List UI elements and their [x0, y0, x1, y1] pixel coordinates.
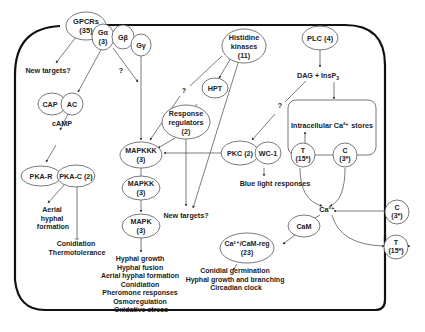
node-mapkkk: MAPKKK (3): [120, 142, 162, 168]
svg-text:(3*): (3*): [391, 212, 402, 220]
node-wc1: WC-1: [255, 142, 281, 164]
svg-text:MAPKK: MAPKK: [128, 179, 155, 188]
svg-text:PKA-C (2): PKA-C (2): [59, 172, 93, 181]
pka-output-aerial: Aerial hyphal formation: [37, 206, 69, 230]
svg-text:MAPK: MAPK: [130, 217, 152, 226]
svg-text:CAP: CAP: [42, 100, 57, 109]
svg-text:C: C: [342, 147, 347, 154]
node-membrane-channel-t: T (15*): [384, 235, 408, 259]
svg-text:C: C: [394, 204, 399, 211]
node-g-alpha: Gα (3): [92, 24, 114, 50]
svg-text:(3*): (3*): [339, 155, 350, 163]
svg-text:GPCRs: GPCRs: [73, 17, 99, 26]
signaling-diagram: Intracellular Ca²⁺ stores: [0, 0, 425, 332]
svg-text:T: T: [394, 239, 399, 246]
node-cam: CaM: [288, 215, 320, 237]
node-store-channel-c: C (3*): [333, 143, 357, 167]
svg-text:(35): (35): [79, 26, 93, 35]
svg-text:HPT: HPT: [208, 84, 223, 93]
question-mark: ?: [278, 101, 282, 110]
blue-light-responses-label: Blue light responses: [240, 179, 311, 188]
svg-text:Response: Response: [169, 109, 203, 118]
node-store-channel-t: T (15*): [291, 143, 315, 167]
node-mapkk: MAPKK (3): [122, 176, 160, 200]
camp-label: cAMP: [52, 119, 72, 128]
pka-outputs: Conidiation Thermotolerance: [49, 240, 106, 256]
svg-text:(11): (11): [238, 51, 251, 60]
svg-text:CaM: CaM: [296, 222, 311, 231]
node-histidine-kinases: Histidine kinases (11): [222, 29, 266, 63]
question-mark: ?: [119, 66, 123, 75]
node-g-gamma: Gγ: [131, 34, 151, 56]
node-pka-c: PKA-C (2): [57, 165, 95, 187]
node-ac: AC: [61, 93, 83, 115]
svg-text:kinases: kinases: [231, 42, 257, 51]
svg-text:PKC (2): PKC (2): [227, 149, 254, 158]
svg-text:MAPKKK: MAPKKK: [125, 146, 157, 155]
new-targets-label: New targets?: [163, 211, 208, 220]
svg-text:(3): (3): [137, 155, 146, 164]
svg-text:(23): (23): [241, 249, 253, 257]
svg-text:WC-1: WC-1: [259, 149, 277, 158]
svg-text:Gα: Gα: [98, 28, 109, 37]
node-membrane-channel-c: C (3*): [385, 200, 409, 224]
svg-text:AC: AC: [67, 100, 77, 109]
node-pka-r: PKA-R: [21, 166, 61, 186]
svg-text:Histidine: Histidine: [229, 33, 259, 42]
svg-text:T: T: [301, 147, 306, 154]
intracellular-stores-label: Intracellular Ca²⁺ stores: [291, 121, 373, 130]
cam-outputs: Conidial germination Hyphal growth and b…: [186, 267, 287, 291]
node-hpt: HPT: [202, 78, 228, 98]
svg-text:(3): (3): [99, 37, 108, 46]
new-targets-label: New targets?: [25, 66, 70, 75]
svg-text:(3): (3): [137, 188, 146, 197]
svg-text:PLC (4): PLC (4): [307, 34, 334, 43]
node-ca-cam-reg: Ca²⁺/CaM-reg (23): [220, 233, 274, 263]
node-plc: PLC (4): [302, 26, 338, 50]
svg-text:(15*): (15*): [388, 247, 403, 255]
svg-text:(15*): (15*): [295, 155, 310, 163]
svg-text:(3): (3): [137, 226, 146, 235]
svg-text:(2): (2): [182, 127, 191, 136]
question-mark: ?: [182, 86, 186, 95]
svg-text:Gγ: Gγ: [136, 41, 146, 50]
calcium-ion-label: Ca²⁺: [319, 205, 335, 214]
svg-text:PKA-R: PKA-R: [30, 172, 54, 181]
svg-text:regulators: regulators: [168, 118, 203, 127]
dag-insp3-label: DAG + InsP3: [297, 71, 339, 81]
mapk-outputs: Hyphal growth Hyphal fusion Aerial hypha…: [101, 255, 181, 313]
svg-text:Ca²⁺/CaM-reg: Ca²⁺/CaM-reg: [224, 240, 269, 248]
svg-text:Gβ: Gβ: [118, 33, 129, 42]
node-response-regulators: Response regulators (2): [162, 105, 210, 139]
node-mapk: MAPK (3): [122, 214, 160, 238]
node-pkc: PKC (2): [221, 141, 259, 165]
